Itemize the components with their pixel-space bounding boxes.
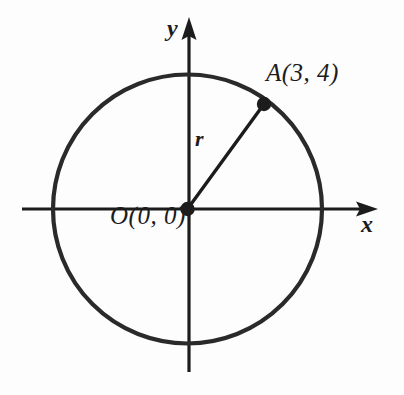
radius-label: r [195, 128, 204, 150]
diagram-svg [0, 0, 404, 395]
point-a-label: A(3, 4) [266, 60, 339, 85]
circle-diagram-figure: y x A(3, 4) O(0, 0) r [0, 0, 404, 395]
y-axis-label: y [167, 16, 178, 40]
radius-segment [188, 104, 265, 209]
x-axis-label: x [361, 212, 373, 236]
point-a-marker [257, 97, 271, 111]
origin-label: O(0, 0) [110, 203, 186, 228]
